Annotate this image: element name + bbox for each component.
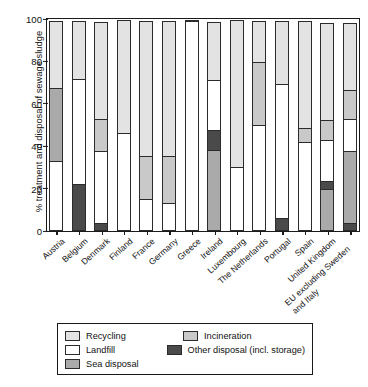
bar-segment xyxy=(207,130,221,151)
legend-swatch-icon xyxy=(65,345,80,355)
legend-item[interactable]: Landfill xyxy=(65,345,167,355)
legend-label: Recycling xyxy=(86,331,126,341)
bar-segment xyxy=(94,151,108,223)
bar-segment xyxy=(343,119,357,153)
y-tick-label: 20 xyxy=(31,183,47,194)
x-tick-mark xyxy=(305,231,306,235)
bar-segment xyxy=(275,218,289,231)
bar-segment xyxy=(72,79,86,185)
bar-segment xyxy=(139,156,153,201)
x-tick-mark xyxy=(260,231,261,235)
bar-segment xyxy=(320,120,334,141)
legend-label: Sea disposal xyxy=(86,359,139,369)
bar-segment xyxy=(252,125,266,231)
chart-figure: % treatment and disposal of sewage sludg… xyxy=(0,0,368,387)
legend-row: Sea disposal xyxy=(65,357,305,371)
bar-france[interactable] xyxy=(139,19,153,231)
bar-segment xyxy=(207,22,221,81)
legend-row: LandfillOther disposal (incl. storage) xyxy=(65,343,305,357)
legend-row: RecyclingIncineration xyxy=(65,329,305,343)
bar-segment xyxy=(94,223,108,231)
legend-swatch-icon xyxy=(65,359,80,369)
bar-segment xyxy=(275,21,289,85)
y-axis-title: % treatment and disposal of sewage sludg… xyxy=(33,7,44,237)
bar-segment xyxy=(207,80,221,131)
bar-segment xyxy=(320,140,334,182)
bar-segment xyxy=(343,223,357,231)
bar-belgium[interactable] xyxy=(72,19,86,231)
bar-segment xyxy=(343,23,357,91)
y-tick-label: 40 xyxy=(31,141,47,152)
bar-segment xyxy=(185,21,199,231)
bar-segment xyxy=(117,20,131,134)
bar-segment xyxy=(162,203,176,231)
bar-luxembourg[interactable] xyxy=(230,19,244,231)
y-tick-label: 100 xyxy=(26,14,47,25)
x-tick-mark xyxy=(237,231,238,235)
x-tick-mark xyxy=(79,231,80,235)
bar-segment xyxy=(230,167,244,231)
bar-segment xyxy=(162,21,176,157)
bar-segment xyxy=(343,151,357,223)
bar-segment xyxy=(298,128,312,143)
bar-group xyxy=(47,19,359,231)
bar-segment xyxy=(298,21,312,129)
legend-label: Other disposal (incl. storage) xyxy=(188,345,305,355)
x-tick-label: Finland xyxy=(107,236,135,262)
legend-item[interactable]: Sea disposal xyxy=(65,359,183,369)
bar-eu-excluding-sweden-and-italy[interactable] xyxy=(343,19,357,231)
bar-segment xyxy=(94,119,108,153)
legend-item[interactable]: Incineration xyxy=(183,331,252,341)
bar-segment xyxy=(230,20,244,168)
bar-segment xyxy=(207,150,221,231)
bar-segment xyxy=(72,21,86,80)
bar-germany[interactable] xyxy=(162,19,176,231)
bar-segment xyxy=(162,156,176,205)
legend-swatch-icon xyxy=(167,345,182,355)
bar-united-kingdom[interactable] xyxy=(320,19,334,231)
bar-segment xyxy=(139,199,153,231)
bar-segment xyxy=(117,133,131,231)
x-tick-mark xyxy=(282,231,283,235)
bar-segment xyxy=(252,62,266,126)
x-tick-label: Greece xyxy=(175,236,203,262)
x-tick-mark xyxy=(215,231,216,235)
x-axis-labels: AustriaBelgiumDenmarkFinlandFranceGerman… xyxy=(46,236,360,306)
legend-label: Incineration xyxy=(204,331,252,341)
bar-portugal[interactable] xyxy=(275,19,289,231)
bar-segment xyxy=(49,161,63,231)
bar-segment xyxy=(343,90,357,120)
bar-ireland[interactable] xyxy=(207,19,221,231)
x-tick-mark xyxy=(124,231,125,235)
bar-finland[interactable] xyxy=(117,19,131,231)
x-tick-mark xyxy=(350,231,351,235)
x-tick-mark xyxy=(169,231,170,235)
bar-segment xyxy=(94,22,108,120)
bar-segment xyxy=(298,142,312,231)
bar-segment xyxy=(320,189,334,231)
plot-area: 020406080100 xyxy=(46,18,360,232)
x-tick-mark xyxy=(147,231,148,235)
x-tick-mark xyxy=(328,231,329,235)
legend-item[interactable]: Other disposal (incl. storage) xyxy=(167,345,305,355)
chart-legend: RecyclingIncinerationLandfillOther dispo… xyxy=(57,323,313,375)
bar-greece[interactable] xyxy=(185,19,199,231)
bar-segment xyxy=(49,21,63,89)
bar-segment xyxy=(72,184,86,231)
bar-denmark[interactable] xyxy=(94,19,108,231)
legend-item[interactable]: Recycling xyxy=(65,331,183,341)
bar-segment xyxy=(275,84,289,220)
x-tick-mark xyxy=(192,231,193,235)
bar-spain[interactable] xyxy=(298,19,312,231)
legend-swatch-icon xyxy=(65,331,80,341)
bar-segment xyxy=(320,23,334,121)
bar-the-netherlands[interactable] xyxy=(252,19,266,231)
y-tick-label: 0 xyxy=(37,226,47,237)
legend-swatch-icon xyxy=(183,331,198,341)
x-tick-mark xyxy=(102,231,103,235)
y-tick-label: 80 xyxy=(31,56,47,67)
x-tick-mark xyxy=(56,231,57,235)
bar-segment xyxy=(139,21,153,157)
legend-label: Landfill xyxy=(86,345,115,355)
bar-austria[interactable] xyxy=(49,19,63,231)
